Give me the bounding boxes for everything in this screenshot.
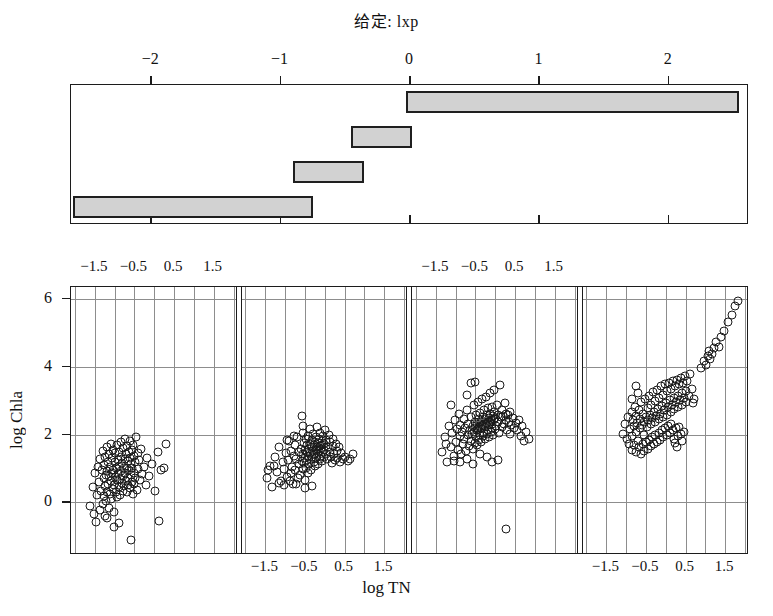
data-point (103, 513, 112, 522)
data-point (688, 399, 697, 408)
data-point (159, 463, 168, 472)
scatter-panels-container (70, 286, 748, 554)
given-interval-bar[interactable] (406, 91, 739, 113)
given-axis-tick-label: −2 (142, 50, 159, 68)
vertical-gridline (174, 287, 175, 553)
given-axis-tick-label: −1 (271, 50, 288, 68)
data-point (686, 370, 695, 379)
vertical-gridline (214, 287, 215, 553)
vertical-gridline (134, 287, 135, 553)
given-axis-tick (150, 76, 152, 85)
vertical-gridline (75, 287, 76, 553)
horizontal-gridline (71, 367, 236, 368)
data-point (679, 427, 688, 436)
scatter-panel[interactable] (582, 286, 749, 554)
y-axis-tick (62, 298, 71, 300)
x-axis-tick-label: 1.5 (203, 258, 222, 275)
given-axis-tick (280, 76, 282, 85)
horizontal-gridline (583, 299, 748, 300)
vertical-gridline (345, 287, 346, 553)
vertical-gridline (575, 287, 576, 553)
given-axis-tick-bottom (538, 215, 540, 224)
horizontal-gridline (71, 502, 236, 503)
data-point (292, 479, 301, 488)
given-panel-title: 给定: lxp (0, 8, 773, 32)
horizontal-gridline (583, 502, 748, 503)
x-axis-tick-label: −1.5 (251, 558, 278, 575)
data-point (154, 448, 163, 457)
vertical-gridline (666, 287, 667, 553)
data-point (264, 466, 273, 475)
data-point (136, 444, 145, 453)
y-axis-tick (62, 366, 71, 368)
given-interval-bar[interactable] (351, 126, 412, 148)
vertical-gridline (305, 287, 306, 553)
horizontal-gridline (412, 367, 577, 368)
vertical-gridline (325, 287, 326, 553)
given-axis-tick-bottom (668, 215, 670, 224)
data-point (470, 377, 479, 386)
vertical-gridline (416, 287, 417, 553)
given-interval-bar[interactable] (73, 196, 314, 218)
data-point (162, 440, 171, 449)
data-point (437, 448, 446, 457)
given-axis-tick-label: 1 (534, 50, 542, 68)
vertical-gridline (436, 287, 437, 553)
x-axis-tick-label: −0.5 (631, 558, 658, 575)
data-point (308, 482, 317, 491)
x-axis-tick-label: −0.5 (120, 258, 147, 275)
scatter-panel[interactable] (241, 286, 408, 554)
vertical-gridline (285, 287, 286, 553)
y-axis-tick-label: 0 (44, 492, 52, 510)
vertical-gridline (154, 287, 155, 553)
data-point (672, 443, 681, 452)
data-point (348, 450, 357, 459)
given-axis-tick-bottom (409, 215, 411, 224)
scatter-panel[interactable] (70, 286, 237, 554)
data-point (446, 400, 455, 409)
vertical-gridline (384, 287, 385, 553)
data-point (687, 384, 696, 393)
x-axis-tick-label: −0.5 (461, 258, 488, 275)
given-axis-tick (409, 76, 411, 85)
y-axis-tick-label: 4 (44, 357, 52, 375)
vertical-gridline (745, 287, 746, 553)
x-axis-tick-label: −1.5 (421, 258, 448, 275)
data-point (714, 343, 723, 352)
given-axis-tick-label: 2 (664, 50, 672, 68)
data-point (145, 471, 154, 480)
vertical-gridline (364, 287, 365, 553)
x-axis-tick-label: 1.5 (715, 558, 734, 575)
x-axis-tick-label: 0.5 (164, 258, 183, 275)
y-axis-tick (62, 434, 71, 436)
data-point (496, 381, 505, 390)
x-axis-tick-label: −1.5 (80, 258, 107, 275)
data-point (132, 433, 141, 442)
x-axis-tick-label: −1.5 (592, 558, 619, 575)
x-axis-tick-label: 0.5 (505, 258, 524, 275)
vertical-gridline (194, 287, 195, 553)
data-point (634, 389, 643, 398)
given-axis-tick-label: 0 (405, 50, 413, 68)
data-point (91, 518, 100, 527)
x-axis-tick-label: 0.5 (334, 558, 353, 575)
data-point (441, 440, 450, 449)
horizontal-gridline (242, 502, 407, 503)
vertical-gridline (404, 287, 405, 553)
data-point (502, 524, 511, 533)
y-axis-tick (62, 501, 71, 503)
data-point (462, 390, 471, 399)
horizontal-gridline (412, 502, 577, 503)
data-point (151, 486, 160, 495)
horizontal-gridline (412, 299, 577, 300)
coplot-figure: 给定: lxp −2−1012 0246 log Chla log TN −1.… (0, 0, 773, 616)
y-axis-tick-label: 6 (44, 289, 52, 307)
vertical-gridline (535, 287, 536, 553)
data-point (132, 485, 141, 494)
scatter-panel[interactable] (411, 286, 578, 554)
x-axis-tick-label: −0.5 (290, 558, 317, 575)
x-axis-tick-label: 0.5 (675, 558, 694, 575)
given-interval-bar[interactable] (293, 161, 364, 183)
data-point (720, 327, 729, 336)
data-point (298, 422, 307, 431)
